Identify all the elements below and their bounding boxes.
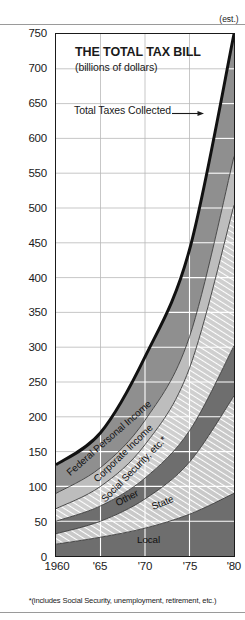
chart-title: THE TOTAL TAX BILL (75, 45, 225, 59)
top-divider-rule (0, 24, 245, 25)
y-axis-tick-label: 300 (28, 341, 47, 353)
bottom-divider-rule (0, 612, 245, 613)
x-axis-tick-label: '75 (183, 560, 197, 572)
y-axis-tick-label: 50 (35, 516, 47, 528)
y-axis-tick-label: 250 (28, 376, 47, 388)
y-axis-tick-label: 750 (28, 27, 47, 39)
chart-subtitle: (billions of dollars) (75, 61, 225, 73)
chart-page: 7507006506005505004504003503002502001501… (0, 0, 245, 620)
x-axis-est-note: (est.) (219, 14, 238, 24)
x-axis-tick-label: '80 (227, 560, 241, 572)
y-axis-tick-label: 600 (28, 132, 47, 144)
title-block: THE TOTAL TAX BILL (billions of dollars) (75, 45, 225, 73)
footnote: *(includes Social Security, unemployment… (0, 596, 245, 605)
x-axis-tick-label: '70 (138, 560, 152, 572)
y-axis-tick-label: 400 (28, 272, 47, 284)
y-axis-tick-label: 200 (28, 411, 47, 423)
y-axis: 7507006506005505004504003503002502001501… (0, 33, 55, 557)
y-axis-tick-label: 550 (28, 167, 47, 179)
y-axis-tick-label: 700 (28, 62, 47, 74)
x-axis: 1960'65'70'75'80 (0, 560, 245, 590)
total-taxes-annotation-label: Total Taxes Collected (74, 104, 171, 116)
y-axis-tick-label: 150 (28, 446, 47, 458)
y-axis-tick-label: 100 (28, 481, 47, 493)
right-arrow-icon (172, 110, 204, 117)
x-axis-tick-label: '65 (93, 560, 107, 572)
y-axis-tick-label: 650 (28, 97, 47, 109)
y-axis-tick-label: 450 (28, 237, 47, 249)
x-axis-tick-label: 1960 (45, 560, 70, 572)
band-label-local: Local (137, 534, 160, 545)
y-axis-tick-label: 500 (28, 202, 47, 214)
y-axis-tick-label: 350 (28, 306, 47, 318)
